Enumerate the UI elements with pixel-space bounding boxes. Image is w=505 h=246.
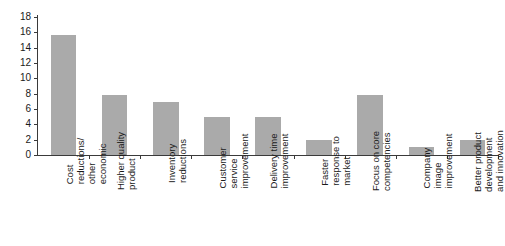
category-label-text: Better productdevelopmentand innovation — [472, 130, 505, 192]
category-label-line: service — [228, 134, 239, 189]
y-tick-label: 16 — [20, 25, 31, 38]
category-label: Inventoryreductions — [140, 161, 191, 246]
category-label: Delivery timeimprovement — [242, 161, 293, 246]
category-label: Costreductions/othereconomic — [38, 161, 89, 246]
y-tick: 0 — [0, 155, 38, 156]
category-label-line: Inventory — [166, 139, 177, 183]
category-label-line: Customer — [217, 134, 228, 189]
category-label: Fasterresponse tomarket — [294, 161, 345, 246]
x-tick-mark — [294, 155, 295, 159]
category-label-text: Inventoryreductions — [166, 139, 188, 183]
category-label-line: product — [126, 132, 137, 190]
category-label-line: reductions — [177, 139, 188, 183]
y-tick-mark — [34, 155, 38, 156]
category-label-text: Delivery timeimprovement — [268, 134, 290, 189]
y-tick-label: 18 — [20, 10, 31, 23]
category-label-line: Focus on core — [370, 131, 381, 191]
category-label-line: Higher quality — [115, 132, 126, 190]
category-label: Customerserviceimprovement — [191, 161, 242, 246]
y-tick-label: 12 — [20, 56, 31, 69]
y-tick: 10 — [0, 78, 38, 79]
x-tick-mark — [191, 155, 192, 159]
y-tick-label: 0 — [25, 148, 31, 161]
category-label-line: development — [483, 130, 494, 192]
y-tick: 14 — [0, 48, 38, 49]
y-tick: 18 — [0, 17, 38, 18]
x-tick-mark — [140, 155, 141, 159]
y-tick-label: 10 — [20, 71, 31, 84]
category-label: Better productdevelopmentand innovation — [447, 161, 498, 246]
y-tick: 12 — [0, 63, 38, 64]
y-tick: 4 — [0, 124, 38, 125]
x-tick-mark — [396, 155, 397, 159]
category-label-line: improvement — [279, 134, 290, 189]
y-tick-label: 6 — [25, 102, 31, 115]
y-tick-label: 4 — [25, 117, 31, 130]
category-label-text: Focus on corecompetencies — [370, 131, 392, 191]
bar-chart: 024681012141618 Costreductions/otherecon… — [0, 0, 505, 246]
y-tick: 6 — [0, 109, 38, 110]
x-axis-category-labels: Costreductions/othereconomicHigher quali… — [38, 161, 498, 246]
category-label-line: and innovation — [494, 130, 505, 192]
category-label: Higher qualityproduct — [89, 161, 140, 246]
category-label-line: response to — [330, 136, 341, 186]
y-tick-label: 14 — [20, 41, 31, 54]
category-label-line: Company — [421, 134, 432, 189]
category-label-line: Better product — [472, 130, 483, 192]
category-label-line: reductions/ — [75, 138, 86, 184]
category-label: Focus on corecompetencies — [345, 161, 396, 246]
y-tick-label: 2 — [25, 133, 31, 146]
category-label-line: competencies — [381, 131, 392, 191]
y-tick: 16 — [0, 32, 38, 33]
y-tick: 2 — [0, 140, 38, 141]
category-label-line: Faster — [319, 136, 330, 186]
category-label-line: Cost — [64, 138, 75, 184]
category-label-text: Higher qualityproduct — [115, 132, 137, 190]
y-tick-label: 8 — [25, 87, 31, 100]
category-label-line: Delivery time — [268, 134, 279, 189]
category-label-line: image — [432, 134, 443, 189]
y-tick: 8 — [0, 94, 38, 95]
category-label: Companyimageimprovement — [396, 161, 447, 246]
